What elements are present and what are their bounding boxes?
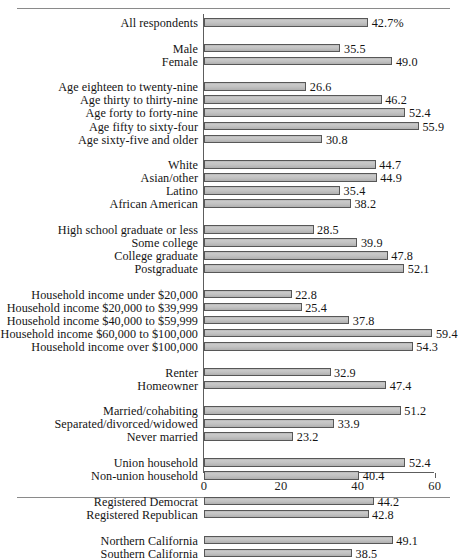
category-label: Union household (114, 457, 198, 470)
category-label: Postgraduate (134, 263, 198, 276)
bar (204, 57, 392, 66)
chart-row: Northern California49.1 (0, 534, 464, 547)
category-label: Separated/divorced/widowed (55, 418, 198, 431)
category-label: Age eighteen to twenty-nine (58, 81, 198, 94)
bar-value-label: 39.9 (361, 237, 383, 250)
bar (204, 368, 331, 377)
bar-value-label: 59.4 (436, 327, 458, 340)
category-label: Renter (165, 366, 198, 379)
category-label: Homeowner (137, 379, 198, 392)
bar-value-label: 44.7 (379, 159, 401, 172)
bar-value-label: 38.5 (356, 547, 378, 560)
chart-row: College graduate47.8 (0, 250, 464, 263)
category-label: Household income $40,000 to $59,999 (7, 314, 198, 327)
bar-value-label: 32.9 (334, 366, 356, 379)
chart-row: All respondents42.7% (0, 17, 464, 30)
bar (204, 186, 340, 195)
bar-value-label: 44.2 (377, 495, 399, 508)
category-label: Non-union household (91, 470, 198, 483)
chart-row: Registered Republican42.8 (0, 508, 464, 521)
bar (204, 135, 322, 144)
chart-row: Asian/other44.9 (0, 172, 464, 185)
bar-value-label: 54.3 (416, 341, 438, 354)
bar (204, 432, 293, 441)
category-label: Household income $20,000 to $39,999 (7, 301, 198, 314)
chart-row: Postgraduate52.1 (0, 263, 464, 276)
bar-value-label: 22.8 (295, 288, 317, 301)
bar (204, 44, 340, 53)
chart-row: Household income $60,000 to $100,00059.4 (0, 327, 464, 340)
category-label: Female (162, 55, 198, 68)
bar (204, 497, 374, 506)
chart-row: Household income over $100,00054.3 (0, 341, 464, 354)
category-label: White (168, 159, 198, 172)
chart-row: Some college39.9 (0, 237, 464, 250)
chart-row: Household income $20,000 to $39,99925.4 (0, 301, 464, 314)
bar-value-label: 52.1 (408, 263, 430, 276)
bar (204, 536, 393, 545)
chart-row: Household income under $20,00022.8 (0, 288, 464, 301)
bar-value-label: 42.7% (372, 17, 404, 30)
category-label: Registered Democrat (94, 495, 198, 508)
chart-row: Married/cohabiting51.2 (0, 405, 464, 418)
bar (204, 95, 382, 104)
bar-value-label: 47.4 (390, 379, 412, 392)
bar (204, 342, 413, 351)
bar-value-label: 38.2 (354, 198, 376, 211)
category-label: Some college (131, 237, 198, 250)
bar-value-label: 28.5 (317, 224, 339, 237)
category-label: Northern California (101, 534, 198, 547)
chart-row: White44.7 (0, 159, 464, 172)
bar-value-label: 51.2 (404, 405, 426, 418)
chart-row: Female49.0 (0, 55, 464, 68)
bar (204, 264, 404, 273)
bar-chart-plot-area: 0204060 All respondents42.7%Male35.5Fema… (0, 14, 464, 484)
chart-row: Separated/divorced/widowed33.9 (0, 418, 464, 431)
chart-row: Latino35.4 (0, 185, 464, 198)
chart-row: Age fifty to sixty-four55.9 (0, 120, 464, 133)
bar-value-label: 49.1 (396, 534, 418, 547)
category-label: Age fifty to sixty-four (89, 120, 198, 133)
bar (204, 160, 376, 169)
bar (204, 225, 314, 234)
category-label: High school graduate or less (58, 224, 198, 237)
bar-value-label: 42.8 (372, 508, 394, 521)
chart-row: African American38.2 (0, 198, 464, 211)
category-label: Household income under $20,000 (31, 288, 198, 301)
chart-row: Age thirty to thirty-nine46.2 (0, 94, 464, 107)
category-label: All respondents (120, 17, 198, 30)
chart-row: Male35.5 (0, 42, 464, 55)
bar (204, 458, 405, 467)
bar-value-label: 55.9 (422, 120, 444, 133)
bar (204, 419, 334, 428)
category-label: Household income over $100,000 (31, 341, 198, 354)
bar (204, 471, 359, 480)
category-label: Never married (127, 431, 198, 444)
bar (204, 329, 432, 338)
bar-value-label: 44.9 (380, 172, 402, 185)
chart-row: Never married23.2 (0, 431, 464, 444)
bar (204, 199, 351, 208)
bar-value-label: 25.4 (305, 301, 327, 314)
bar (204, 510, 369, 519)
category-label: Married/cohabiting (103, 405, 198, 418)
chart-row: Age eighteen to twenty-nine26.6 (0, 81, 464, 94)
category-label: Household income $60,000 to $100,000 (1, 327, 198, 340)
bar (204, 303, 302, 312)
bar (204, 290, 292, 299)
chart-row: Renter32.9 (0, 366, 464, 379)
chart-row: Age forty to forty-nine52.4 (0, 107, 464, 120)
bar (204, 18, 368, 27)
category-label: Age sixty-five and older (78, 133, 198, 146)
category-label: Male (173, 42, 198, 55)
bar-value-label: 52.4 (409, 107, 431, 120)
bar (204, 251, 388, 260)
bar-value-label: 46.2 (385, 94, 407, 107)
chart-row: High school graduate or less28.5 (0, 224, 464, 237)
bar-value-label: 23.2 (297, 431, 319, 444)
bar (204, 173, 377, 182)
bar-value-label: 33.9 (338, 418, 360, 431)
chart-row: Household income $40,000 to $59,99937.8 (0, 314, 464, 327)
bar (204, 549, 352, 558)
